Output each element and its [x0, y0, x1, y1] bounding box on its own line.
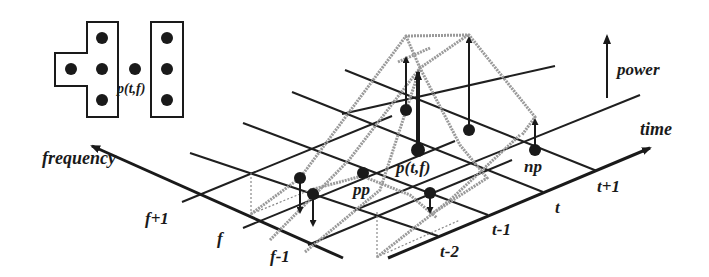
point-np [529, 144, 541, 156]
np-label: np [524, 157, 542, 176]
neighborhood-inset: p(t,f) [55, 22, 183, 117]
grid-point [307, 188, 319, 200]
grid-point [424, 187, 436, 199]
time-tick: t-1 [492, 220, 511, 239]
inset-point [96, 94, 108, 106]
inset-point [161, 63, 173, 75]
inset-point [161, 32, 173, 44]
frequency-axis-label: frequency [42, 148, 117, 168]
pp-label: pp [351, 180, 370, 199]
inset-point [65, 63, 77, 75]
t-shaped-region [55, 22, 118, 117]
freq-tick: f-1 [270, 247, 290, 266]
power-label: power [615, 60, 660, 79]
point-labels: p(t,f) pp np [351, 157, 542, 199]
inset-point [161, 94, 173, 106]
inset-point [96, 32, 108, 44]
grid-point [294, 172, 306, 184]
inset-point [96, 63, 108, 75]
center-point-label: p(t,f) [394, 158, 430, 177]
inset-center-point [129, 63, 141, 75]
inset-center-label: p(t,f) [116, 81, 145, 97]
point-pp [357, 167, 369, 179]
freq-tick: f+1 [145, 209, 169, 228]
time-tick: t+1 [597, 177, 620, 196]
time-gridlines [182, 66, 555, 245]
grid-point [463, 124, 475, 136]
freq-tick: f [217, 229, 225, 248]
grid-point [400, 104, 412, 116]
time-axis-label: time [640, 119, 672, 139]
power-legend: power [607, 36, 660, 98]
point-p-t-f [411, 143, 425, 157]
time-tick: t [555, 198, 561, 217]
time-frequency-power-diagram: p(t,f) power frequency time f+1 f f-1 t-… [0, 0, 709, 277]
time-tick: t-2 [440, 242, 459, 261]
